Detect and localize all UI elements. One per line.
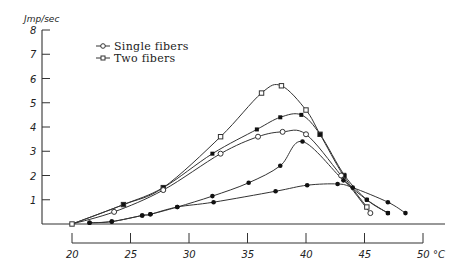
y-axis-label: Jmp/sec xyxy=(22,14,59,24)
legend-entry-two-fibers: Two fibers xyxy=(96,52,176,65)
data-point-open-circle xyxy=(161,188,166,193)
y-tick-label: 8 xyxy=(30,25,36,36)
data-point-open-circle xyxy=(112,209,117,214)
markers xyxy=(70,84,408,227)
data-point-filled-circle xyxy=(351,185,356,190)
data-point-filled-square xyxy=(210,152,214,156)
y-tick-label: 5 xyxy=(30,98,36,109)
y-tick-label: 1 xyxy=(30,195,36,206)
data-point-filled-circle xyxy=(148,212,153,217)
data-point-open-circle xyxy=(368,211,373,216)
x-tick-label: 20 xyxy=(66,249,79,260)
x-tick-label: 45 xyxy=(359,249,372,260)
x-tick-label: 35 xyxy=(242,249,255,260)
data-point-filled-square xyxy=(318,132,322,136)
data-point-open-square xyxy=(304,108,308,112)
data-point-open-square xyxy=(279,84,283,88)
data-point-open-circle xyxy=(280,129,285,134)
data-point-filled-circle xyxy=(175,205,180,210)
data-point-filled-square xyxy=(255,127,259,131)
data-point-open-circle xyxy=(218,151,223,156)
data-point-filled-circle xyxy=(335,182,340,187)
series-line xyxy=(90,184,406,223)
data-point-open-circle xyxy=(304,132,309,137)
data-point-filled-square xyxy=(121,203,125,207)
data-point-open-circle xyxy=(256,134,261,139)
x-tick-label: 30 xyxy=(183,249,196,260)
legend: Single fibers Two fibers xyxy=(96,40,189,65)
y-tick-label: 7 xyxy=(30,49,37,60)
legend-marker-open-square xyxy=(101,56,105,60)
x-tick-label: 40 xyxy=(300,249,313,260)
y-tick-label: 6 xyxy=(30,74,36,85)
data-point-filled-circle xyxy=(300,139,305,144)
x-ticks: 20253035404550 °C xyxy=(66,233,445,260)
data-point-filled-circle xyxy=(87,220,92,225)
data-point-filled-square xyxy=(299,113,303,117)
y-tick-label: 2 xyxy=(30,171,36,182)
data-point-filled-circle xyxy=(365,197,370,202)
y-tick-label: 3 xyxy=(30,146,36,157)
y-tick-label: 4 xyxy=(30,122,36,133)
y-ticks: 12345678 xyxy=(30,25,50,206)
data-point-filled-circle xyxy=(386,200,391,205)
data-point-filled-circle xyxy=(210,194,215,199)
data-point-filled-circle xyxy=(386,211,391,216)
data-point-open-square xyxy=(259,91,263,95)
data-point-open-square xyxy=(70,222,74,226)
chart: Jmp/sec 12345678 20253035404550 °C Singl… xyxy=(0,0,468,265)
data-point-filled-circle xyxy=(109,219,114,224)
data-point-filled-circle xyxy=(211,200,216,205)
data-point-open-square xyxy=(365,205,369,209)
legend-label-two-fibers: Two fibers xyxy=(114,52,176,65)
data-point-filled-circle xyxy=(140,213,145,218)
legend-marker-open-circle xyxy=(101,44,106,49)
data-point-filled-circle xyxy=(273,189,278,194)
data-point-filled-circle xyxy=(305,183,310,188)
data-point-open-circle xyxy=(339,173,344,178)
data-point-filled-square xyxy=(278,115,282,119)
data-point-filled-circle xyxy=(246,180,251,185)
x-tick-label: 50 °C xyxy=(417,249,445,260)
x-tick-label: 25 xyxy=(125,249,138,260)
series-line xyxy=(72,114,388,224)
data-point-filled-circle xyxy=(278,164,283,169)
data-point-filled-circle xyxy=(341,178,346,183)
data-point-open-square xyxy=(218,135,222,139)
data-point-filled-circle xyxy=(403,211,408,216)
